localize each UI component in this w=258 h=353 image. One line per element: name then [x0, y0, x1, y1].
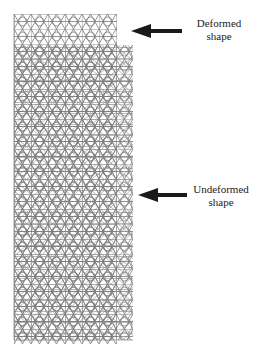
undeformed-shape [14, 14, 133, 340]
undeformed-shape-label: Undeformed shape [188, 183, 254, 209]
lattice-figure: Deformed shape Undeformed shape [0, 0, 258, 353]
deformed-shape-label: Deformed shape [188, 17, 250, 43]
lattice-structure [0, 0, 258, 353]
undeformed-arrow-icon [138, 188, 187, 202]
deformed-arrow-icon [131, 24, 182, 38]
